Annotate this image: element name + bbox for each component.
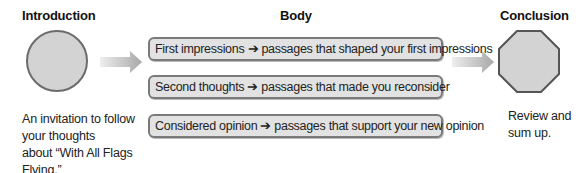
body-heading: Body: [280, 8, 312, 23]
introduction-heading: Introduction: [22, 8, 95, 23]
conclusion-octagon-icon: [498, 30, 560, 93]
description-line: your thoughts: [22, 128, 135, 145]
description-line: Flying.”: [22, 162, 135, 173]
right-arrow-icon: [452, 51, 494, 73]
introduction-description: An invitation to follow your thoughts ab…: [22, 111, 135, 173]
body-item-considered-opinion: Considered opinion ➔ passages that suppo…: [148, 114, 443, 138]
description-line: Review and: [508, 108, 571, 125]
right-arrow-icon: [100, 51, 142, 73]
conclusion-heading: Conclusion: [500, 8, 569, 23]
conclusion-description: Review and sum up.: [508, 108, 571, 142]
body-item-second-thoughts: Second thoughts ➔ passages that made you…: [148, 75, 443, 99]
introduction-circle-icon: [26, 30, 88, 92]
description-line: about “With All Flags: [22, 145, 135, 162]
description-line: An invitation to follow: [22, 111, 135, 128]
description-line: sum up.: [508, 125, 571, 142]
body-item-first-impressions: First impressions ➔ passages that shaped…: [148, 37, 443, 61]
